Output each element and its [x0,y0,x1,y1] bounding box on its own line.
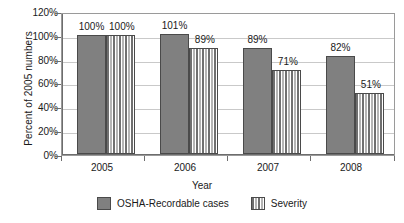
bar-value-label: 82% [330,42,350,53]
x-tick-mark [61,156,62,161]
y-tick-label: 20% [12,127,58,137]
x-tick-label-2005: 2005 [67,162,137,173]
x-tick-mark [394,156,395,161]
bar-osha-2008: 82% [326,56,355,154]
bar-value-label: 101% [162,20,188,31]
y-tick-label: 100% [12,32,58,42]
y-tick-label: 120% [12,8,58,18]
bar-severity-2008: 51% [355,93,384,154]
bar-group-2006: 101% 89% [153,13,225,154]
bar-chart: Percent of 2005 numbers 120% 100% 80% 60… [0,0,404,223]
x-tick-mark [144,156,145,161]
y-tick-label: 40% [12,103,58,113]
bar-group-2007: 89% 71% [236,13,308,154]
x-tick-mark [310,156,311,161]
legend-swatch-striped-icon [251,197,265,210]
x-axis-title: Year [0,180,404,191]
bar-value-label: 89% [247,34,267,45]
legend-label: Severity [271,198,307,209]
chart-legend: OSHA-Recordable cases Severity [0,197,404,210]
y-tick-label: 0% [12,151,58,161]
plot-area: 100% 100% 101% 89% 89% 71% [61,13,395,156]
bar-value-label: 71% [278,56,298,67]
bar-osha-2006: 101% [160,34,189,154]
x-tick-label-2006: 2006 [150,162,220,173]
legend-item-severity: Severity [251,197,307,210]
x-axis-line [62,154,394,155]
bar-group-2008: 82% 51% [319,13,391,154]
bar-osha-2005: 100% [77,35,106,154]
bar-value-label: 89% [195,34,215,45]
y-tick-label: 80% [12,56,58,66]
bar-osha-2007: 89% [243,48,272,154]
bar-severity-2005: 100% [106,35,135,154]
bar-value-label: 100% [109,21,135,32]
bar-severity-2006: 89% [189,48,218,154]
bar-value-label: 100% [79,21,105,32]
legend-swatch-solid-icon [97,197,111,210]
legend-label: OSHA-Recordable cases [117,198,229,209]
x-tick-label-2007: 2007 [233,162,303,173]
y-axis-line [62,14,63,155]
bar-value-label: 51% [361,79,381,90]
bar-group-2005: 100% 100% [70,13,142,154]
bar-severity-2007: 71% [272,70,301,155]
x-tick-mark [227,156,228,161]
x-tick-label-2008: 2008 [316,162,386,173]
y-tick-label: 60% [12,79,58,89]
legend-item-osha-recordable-cases: OSHA-Recordable cases [97,197,229,210]
